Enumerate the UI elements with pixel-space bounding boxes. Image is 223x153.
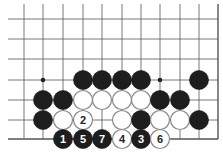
black-stone[interactable]: [54, 91, 73, 110]
move-number: 7: [99, 133, 105, 145]
stones: 2157436: [34, 71, 209, 149]
move-number: 4: [119, 133, 126, 145]
black-stone[interactable]: [132, 71, 151, 90]
black-stone[interactable]: [74, 71, 93, 90]
star-point: [41, 78, 46, 83]
move-number: 5: [80, 133, 86, 145]
star-point: [158, 78, 163, 83]
white-stone[interactable]: [113, 111, 132, 130]
black-stone[interactable]: [34, 111, 53, 130]
black-stone[interactable]: [132, 111, 151, 130]
white-stone[interactable]: [93, 91, 112, 110]
white-stone[interactable]: 2: [74, 111, 93, 130]
white-stone[interactable]: [54, 111, 73, 130]
move-number: 3: [138, 133, 144, 145]
black-stone[interactable]: 5: [74, 130, 93, 149]
white-stone[interactable]: [132, 91, 151, 110]
move-number: 2: [80, 114, 86, 126]
black-stone[interactable]: [190, 71, 209, 90]
go-board: 2157436: [0, 0, 223, 153]
black-stone[interactable]: 7: [93, 130, 112, 149]
white-stone[interactable]: 6: [151, 130, 170, 149]
white-stone[interactable]: [113, 91, 132, 110]
black-stone[interactable]: 3: [132, 130, 151, 149]
black-stone[interactable]: [34, 91, 53, 110]
black-stone[interactable]: [93, 71, 112, 90]
white-stone[interactable]: [171, 111, 190, 130]
move-number: 6: [157, 133, 163, 145]
black-stone[interactable]: [190, 111, 209, 130]
black-stone[interactable]: [113, 71, 132, 90]
white-stone[interactable]: [74, 91, 93, 110]
move-number: 1: [60, 133, 66, 145]
black-stone[interactable]: 1: [54, 130, 73, 149]
black-stone[interactable]: [171, 91, 190, 110]
white-stone[interactable]: [151, 111, 170, 130]
black-stone[interactable]: [151, 91, 170, 110]
white-stone[interactable]: 4: [113, 130, 132, 149]
